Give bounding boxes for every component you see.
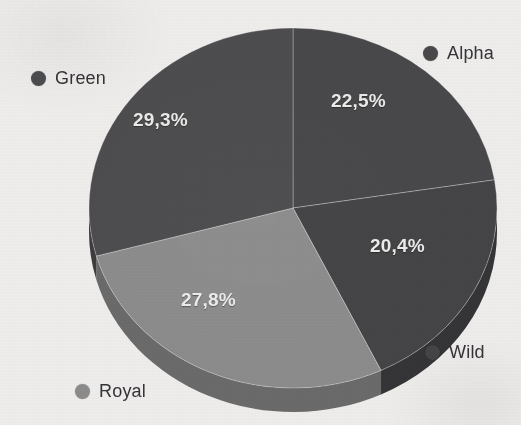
legend-label-wild: Wild (449, 342, 485, 363)
slice-label-green: 29,3% (133, 109, 188, 131)
legend-item-wild[interactable]: Wild (425, 342, 485, 363)
legend-item-alpha[interactable]: Alpha (423, 43, 494, 64)
slice-label-royal: 27,8% (181, 289, 236, 311)
pie-slice-tops (89, 28, 497, 388)
legend-item-royal[interactable]: Royal (75, 381, 146, 402)
legend-swatch-green-icon (31, 71, 46, 86)
legend-swatch-royal-icon (75, 384, 90, 399)
legend-label-royal: Royal (99, 381, 146, 402)
legend-item-green[interactable]: Green (31, 68, 106, 89)
slice-label-wild: 20,4% (370, 235, 425, 257)
legend-swatch-alpha-icon (423, 46, 438, 61)
slice-label-alpha: 22,5% (331, 90, 386, 112)
pie-chart-canvas: 22,5% 20,4% 27,8% 29,3% Alpha Green Roya… (0, 0, 521, 425)
legend-label-green: Green (55, 68, 106, 89)
legend-swatch-wild-icon (425, 345, 440, 360)
legend-label-alpha: Alpha (447, 43, 494, 64)
